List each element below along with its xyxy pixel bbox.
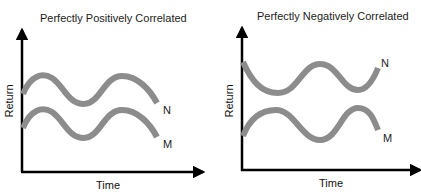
curve-n bbox=[243, 62, 378, 93]
x-axis-label: Time bbox=[319, 177, 343, 189]
x-axis-label: Time bbox=[96, 179, 120, 191]
panel-negative: Perfectly Negatively Correlated Return T… bbox=[223, 10, 420, 189]
curve-n bbox=[23, 75, 157, 104]
curve-label-n: N bbox=[381, 57, 389, 69]
panel-title: Perfectly Negatively Correlated bbox=[257, 10, 409, 22]
curve-m bbox=[23, 109, 157, 138]
curve-label-m: M bbox=[383, 132, 392, 144]
panel-positive: Perfectly Positively Correlated Return T… bbox=[3, 12, 203, 191]
panel-title: Perfectly Positively Correlated bbox=[40, 12, 187, 24]
curve-label-n: N bbox=[163, 104, 171, 116]
y-axis-label: Return bbox=[223, 84, 235, 117]
curve-m bbox=[243, 108, 378, 140]
curve-label-m: M bbox=[163, 138, 172, 150]
correlation-diagram: Perfectly Positively Correlated Return T… bbox=[0, 0, 421, 194]
y-axis-label: Return bbox=[3, 84, 15, 117]
